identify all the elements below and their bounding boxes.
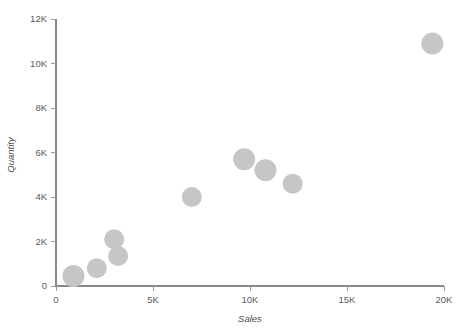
x-tick-label: 5K: [147, 294, 159, 305]
data-point[interactable]: [62, 265, 84, 287]
data-point[interactable]: [108, 246, 128, 266]
y-tick-label: 10K: [30, 58, 48, 69]
data-point[interactable]: [421, 32, 443, 54]
x-axis: 05K10K15K20K: [53, 286, 453, 305]
x-tick-label: 20K: [436, 294, 454, 305]
y-tick-label: 8K: [35, 102, 47, 113]
y-tick-label: 4K: [35, 191, 47, 202]
y-axis-title: Quantity: [5, 136, 16, 173]
data-point[interactable]: [283, 174, 303, 194]
y-tick-label: 0: [42, 280, 47, 291]
x-tick-label: 15K: [339, 294, 357, 305]
y-tick-label: 6K: [35, 147, 47, 158]
data-point[interactable]: [255, 159, 277, 181]
x-tick-group: 05K10K15K20K: [53, 286, 453, 305]
y-tick-label: 2K: [35, 236, 47, 247]
data-point[interactable]: [104, 229, 124, 249]
plot-area: 02K4K6K8K10K12K 05K10K15K20K Sales Quant…: [0, 0, 456, 336]
y-axis: 02K4K6K8K10K12K: [30, 13, 56, 291]
data-point-group: [62, 32, 443, 287]
data-point[interactable]: [233, 148, 255, 170]
y-tick-group: 02K4K6K8K10K12K: [30, 13, 56, 291]
data-point[interactable]: [182, 187, 202, 207]
x-axis-title: Sales: [238, 313, 262, 324]
x-tick-label: 10K: [242, 294, 260, 305]
data-point[interactable]: [87, 258, 107, 278]
scatter-chart: 02K4K6K8K10K12K 05K10K15K20K Sales Quant…: [0, 0, 456, 336]
x-tick-label: 0: [53, 294, 58, 305]
y-tick-label: 12K: [30, 13, 48, 24]
